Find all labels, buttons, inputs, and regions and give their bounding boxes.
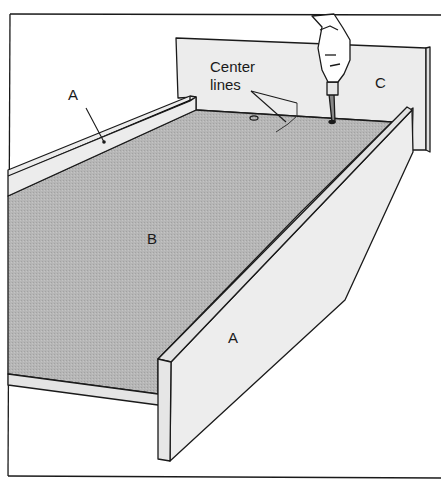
label-left-rail-a: A xyxy=(68,86,78,103)
label-center-lines-1: Center xyxy=(210,58,255,75)
assembly-illustration: A B C A Center lines xyxy=(0,0,441,482)
label-end-panel-c: C xyxy=(375,74,386,91)
label-base-b: B xyxy=(147,230,157,247)
leader-dot xyxy=(102,140,106,144)
label-front-rail-a: A xyxy=(228,329,238,346)
label-center-lines-2: lines xyxy=(210,76,241,93)
